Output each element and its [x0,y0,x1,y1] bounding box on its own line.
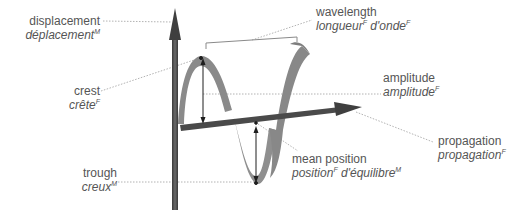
label-propagation: propagation propagationF [438,134,506,162]
label-trough-en: trough [0,166,117,180]
label-mean-position-en: mean position [292,152,401,166]
label-wavelength-en: wavelength [316,5,410,19]
propagation-axis [180,102,362,131]
label-amplitude: amplitude amplitudeF [383,71,439,99]
mean-point [255,122,258,125]
propagation-arrowhead-icon [334,102,362,116]
label-crest-fr: crêteF [0,98,100,112]
leader-displacement [103,21,172,22]
label-propagation-en: propagation [438,134,506,148]
trough-point [255,182,258,185]
arrow-up-icon [254,126,259,133]
label-displacement: displacement déplacementM [0,14,100,42]
wavelength-bracket [206,37,297,49]
label-mean-position: mean position positionF d'équilibreM [292,152,401,180]
label-crest-en: crest [0,84,100,98]
crest-point [200,57,203,60]
label-crest: crest crêteF [0,84,100,112]
label-wavelength-fr: longueurF d'ondeF [316,19,410,33]
label-wavelength: wavelength longueurF d'ondeF [316,5,410,33]
leader-wavelength [252,20,312,40]
label-amplitude-fr: amplitudeF [383,85,439,99]
label-propagation-fr: propagationF [438,148,506,162]
label-trough-fr: creuxM [0,180,117,194]
label-mean-position-fr: positionF d'équilibreM [292,166,401,180]
label-amplitude-en: amplitude [383,71,439,85]
label-displacement-en: displacement [0,14,100,28]
label-trough: trough creuxM [0,166,117,194]
label-displacement-fr: déplacementM [0,28,100,42]
displacement-arrowhead-icon [169,8,181,40]
leader-propagation [356,112,433,142]
